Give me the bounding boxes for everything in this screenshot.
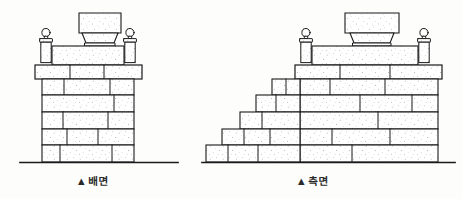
drawing-sheet [0,0,462,199]
side-step-blocks [206,79,300,162]
rear-parapet-course [52,46,124,65]
side-left-finial-post [300,29,313,63]
rear-masonry-wall [42,79,134,162]
rear-right-finial-post [124,29,137,63]
elevation-drawings-svg [0,0,462,199]
caption-triangle-marker-rear: ▲ [78,177,85,187]
caption-side-label: 측면 [308,176,329,188]
rear-cornice-band [35,65,142,79]
caption-side-elevation: ▲측면 [298,174,329,189]
rear-left-finial-post [40,29,53,63]
side-cap-stone [345,13,399,46]
side-right-finial-post [418,29,431,63]
rear-cap-stone [79,13,121,46]
caption-triangle-marker-side: ▲ [298,177,305,187]
side-elevation-figure [202,13,455,163]
rear-elevation-figure [20,13,178,163]
side-cornice-band [295,65,442,79]
side-parapet-course [312,46,418,65]
caption-rear-label: 배면 [88,176,109,188]
side-masonry-wall [300,79,438,162]
caption-rear-elevation: ▲배면 [78,174,109,189]
